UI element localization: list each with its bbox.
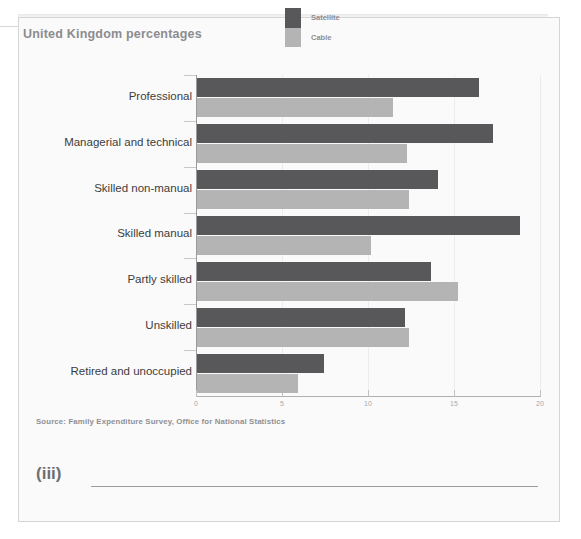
x-axis-tick-label: 0 (194, 400, 198, 407)
bar-satellite (197, 124, 493, 143)
category-label: Managerial and technical (22, 136, 192, 148)
x-axis-tick-label: 20 (536, 400, 544, 407)
legend-swatch-satellite-icon (285, 8, 301, 28)
x-axis-tick-label: 10 (364, 400, 372, 407)
chart-category-row: Retired and unoccupied (18, 350, 542, 396)
bar-cable (197, 144, 407, 163)
bar-cable (197, 328, 409, 347)
bar-cable (197, 236, 371, 255)
bar-cable (197, 98, 393, 117)
legend-label-satellite: Satellite (311, 8, 340, 28)
chart-category-row: Unskilled (18, 304, 542, 350)
bar-cable (197, 374, 298, 393)
category-separator-tick (184, 350, 196, 351)
bar-satellite (197, 78, 479, 97)
category-separator-tick (184, 304, 196, 305)
bar-cable (197, 282, 458, 301)
bar-satellite (197, 216, 520, 235)
category-label: Skilled manual (22, 227, 192, 239)
scanned-page: United Kingdom percentages Satellite Cab… (0, 0, 581, 539)
legend-swatch-group (285, 8, 301, 47)
category-separator-tick (184, 213, 196, 214)
legend-swatch-cable-icon (285, 28, 301, 48)
category-label: Retired and unoccupied (22, 365, 192, 377)
chart-source-note: Source: Family Expenditure Survey, Offic… (36, 417, 285, 426)
category-label: Professional (22, 90, 192, 102)
chart-plot-area: 05101520ProfessionalManagerial and techn… (18, 57, 542, 417)
category-label: Unskilled (22, 319, 192, 331)
category-separator-tick (184, 167, 196, 168)
category-separator-tick (184, 258, 196, 259)
bar-satellite (197, 262, 431, 281)
answer-write-in-rule[interactable] (91, 486, 538, 487)
category-label: Partly skilled (22, 273, 192, 285)
chart-category-row: Skilled non-manual (18, 167, 542, 213)
bar-cable (197, 190, 409, 209)
category-label: Skilled non-manual (22, 182, 192, 194)
chart-title: United Kingdom percentages (23, 27, 202, 41)
chart-category-row: Partly skilled (18, 258, 542, 304)
bar-satellite (197, 308, 405, 327)
legend-label-group: Satellite Cable (311, 8, 340, 47)
chart-category-row: Managerial and technical (18, 121, 542, 167)
x-axis-tick-label: 15 (450, 400, 458, 407)
bar-satellite (197, 354, 324, 373)
chart-category-row: Professional (18, 75, 542, 121)
chart-category-row: Skilled manual (18, 213, 542, 259)
question-number-label: (iii) (36, 464, 62, 484)
answer-row: (iii) (36, 464, 542, 494)
category-separator-tick (184, 121, 196, 122)
x-axis-tick-label: 5 (280, 400, 284, 407)
bar-satellite (197, 170, 438, 189)
legend-label-cable: Cable (311, 28, 340, 48)
category-separator-tick (184, 75, 196, 76)
